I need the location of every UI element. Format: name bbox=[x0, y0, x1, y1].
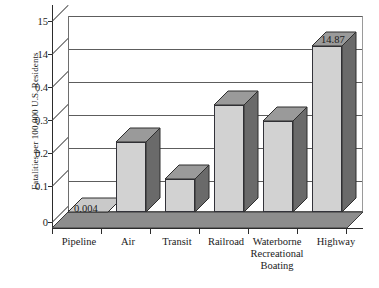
x-label-waterborne-line1: Waterborne bbox=[242, 236, 312, 248]
bar-transit[interactable] bbox=[165, 179, 195, 212]
y-tick-label-0.1: 0.1 bbox=[4, 182, 48, 192]
bar-highway[interactable] bbox=[312, 46, 342, 212]
bars-group bbox=[52, 16, 363, 228]
x-label-waterborne-line3: Boating bbox=[242, 260, 312, 272]
bar-railroad-front bbox=[214, 105, 244, 212]
x-tick-4 bbox=[248, 229, 249, 234]
y-tick-label-0: 0 bbox=[4, 218, 48, 228]
y-axis-ticks: 15 14 0.4 0.3 0.2 0.1 0 bbox=[0, 0, 48, 288]
bar-railroad[interactable] bbox=[214, 105, 244, 212]
y-tick-label-14: 14 bbox=[4, 50, 48, 60]
x-tick-5 bbox=[297, 229, 298, 234]
x-label-waterborne-recreational-boating: Waterborne Recreational Boating bbox=[242, 236, 312, 272]
bar-air-front bbox=[116, 142, 146, 212]
x-tick-2 bbox=[150, 229, 151, 234]
bar-highway-side bbox=[342, 30, 356, 212]
data-label-pipeline: 0.004 bbox=[74, 203, 98, 214]
y-tick-label-0.3: 0.3 bbox=[4, 116, 48, 126]
bar-waterborne-side bbox=[293, 105, 307, 212]
bar-waterborne-recreational-boating[interactable] bbox=[263, 121, 293, 212]
x-axis-line bbox=[52, 228, 363, 229]
x-tick-3 bbox=[199, 229, 200, 234]
y-tick-label-0.4: 0.4 bbox=[4, 83, 48, 93]
x-tick-0 bbox=[52, 229, 53, 234]
y-tick-label-15: 15 bbox=[4, 17, 48, 27]
x-label-highway: Highway bbox=[304, 236, 368, 248]
bar-highway-front bbox=[312, 46, 342, 212]
data-label-highway: 14.87 bbox=[321, 34, 345, 45]
bar-transit-front bbox=[165, 179, 195, 212]
bar-railroad-side bbox=[244, 89, 258, 212]
x-axis-labels: Pipeline Air Transit Railroad Waterborne… bbox=[52, 236, 379, 282]
bar-waterborne-front bbox=[263, 121, 293, 212]
x-label-waterborne-line2: Recreational bbox=[242, 248, 312, 260]
bar-chart: Fatalities per 100,000 U.S. Residents 15… bbox=[0, 0, 379, 288]
y-tick-label-0.2: 0.2 bbox=[4, 149, 48, 159]
bar-air[interactable] bbox=[116, 142, 146, 212]
x-tick-6 bbox=[346, 229, 347, 234]
x-label-highway-line1: Highway bbox=[304, 236, 368, 248]
x-tick-1 bbox=[101, 229, 102, 234]
bar-air-side bbox=[146, 126, 160, 212]
bar-transit-side bbox=[195, 163, 209, 212]
